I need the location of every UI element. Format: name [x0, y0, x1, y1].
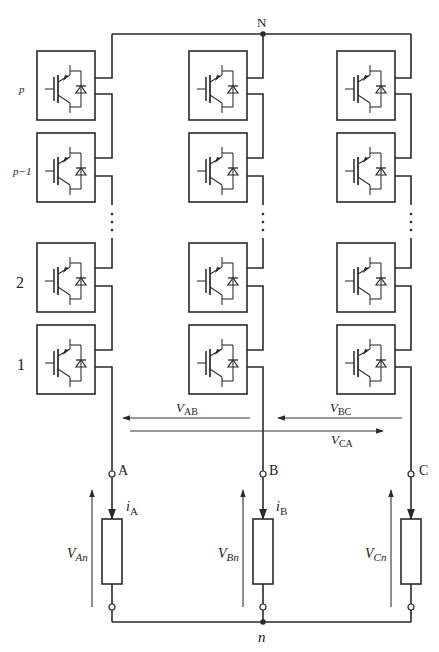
terminal-label-a: A — [118, 463, 129, 478]
label-vbn: VBn — [218, 546, 239, 563]
label-vab: VAB — [176, 400, 198, 417]
load-resistor-b — [253, 519, 273, 584]
label-vbc: VBC — [330, 400, 352, 417]
cell-a-p — [37, 51, 95, 120]
load-neutral-node-dot — [260, 619, 266, 625]
current-label-b: iB — [276, 499, 287, 517]
label-van: VAn — [67, 546, 88, 563]
terminal-c — [408, 471, 414, 477]
label-vca: VCA — [331, 432, 354, 449]
row-label-p-minus-1: p−1 — [12, 165, 31, 177]
cell-b-1 — [189, 325, 247, 394]
cell-c-1 — [337, 325, 395, 394]
terminal-a — [109, 471, 115, 477]
terminal-label-b: B — [269, 463, 278, 478]
cell-a-1 — [37, 325, 95, 394]
current-label-a: iA — [126, 499, 138, 517]
load-resistor-a — [102, 519, 122, 584]
phase-b-column — [189, 34, 263, 471]
row-label-p: p — [18, 83, 25, 95]
neutral-label-N: N — [257, 15, 267, 30]
cell-b-p — [189, 51, 247, 120]
terminal-label-c: C — [419, 463, 428, 478]
cell-b-p-minus-1 — [189, 133, 247, 202]
cell-a-2 — [37, 243, 95, 312]
label-vcn: VCn — [365, 546, 387, 563]
output-terminals — [109, 471, 414, 477]
top-neutral-bus — [112, 31, 411, 37]
cell-b-2 — [189, 243, 247, 312]
ellipsis-dots — [111, 213, 413, 232]
cell-a-p-minus-1 — [37, 133, 95, 202]
terminal-b — [260, 471, 266, 477]
load-resistor-c — [401, 519, 421, 584]
cell-c-2 — [337, 243, 395, 312]
row-label-1: 1 — [17, 356, 25, 373]
inverter-diagram: p p−1 2 1 N VAB VBC VCA A B C — [0, 0, 439, 652]
load-neutral-label-n: n — [258, 629, 266, 645]
phase-a-column — [37, 34, 112, 471]
row-label-2: 2 — [16, 274, 24, 291]
cell-c-p — [337, 51, 395, 120]
cell-c-p-minus-1 — [337, 133, 395, 202]
